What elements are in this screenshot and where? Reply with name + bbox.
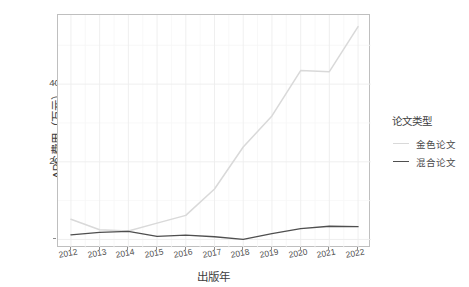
x-tick-mark	[242, 247, 243, 250]
legend-item-label: 金色论文	[416, 137, 456, 151]
x-axis-title: 出版年	[57, 268, 370, 284]
plot-area	[58, 15, 371, 248]
legend-item-label: 混合论文	[416, 155, 456, 169]
x-tick-mark	[185, 247, 186, 250]
x-tick-mark	[300, 247, 301, 250]
y-tick-mark	[53, 238, 56, 239]
legend-key-line-icon	[392, 155, 410, 169]
x-tick-label: 2022	[345, 247, 365, 259]
y-tick-mark	[53, 161, 56, 162]
x-tick-label: 2019	[259, 247, 279, 259]
legend-items: 金色论文混合论文	[392, 135, 469, 170]
legend-title: 论文类型	[392, 113, 469, 128]
x-tick-label: 2015	[144, 247, 164, 259]
x-tick-label: 2014	[115, 247, 135, 259]
x-tick-mark	[357, 247, 358, 250]
x-tick-label: 2020	[288, 247, 308, 259]
x-tick-mark	[156, 247, 157, 250]
x-tick-mark	[328, 247, 329, 250]
x-tick-label: 2016	[173, 247, 193, 259]
x-tick-label: 2013	[87, 247, 107, 259]
legend-key-line-icon	[392, 137, 410, 151]
plot-panel	[57, 14, 370, 247]
line-chart: APC费用（万元） 0200400 2012201320142015201620…	[0, 0, 469, 287]
x-tick-label: 2021	[316, 247, 336, 259]
legend-item[interactable]: 混合论文	[392, 153, 469, 170]
x-tick-label: 2018	[230, 247, 250, 259]
x-tick-label: 2012	[58, 247, 78, 259]
x-tick-mark	[70, 247, 71, 250]
x-tick-mark	[127, 247, 128, 250]
x-tick-mark	[99, 247, 100, 250]
x-tick-mark	[271, 247, 272, 250]
y-tick-mark	[53, 83, 56, 84]
legend-item[interactable]: 金色论文	[392, 135, 469, 152]
legend: 论文类型 金色论文混合论文	[392, 113, 469, 171]
x-tick-label: 2017	[202, 247, 222, 259]
x-tick-mark	[214, 247, 215, 250]
major-gridlines	[58, 15, 371, 248]
